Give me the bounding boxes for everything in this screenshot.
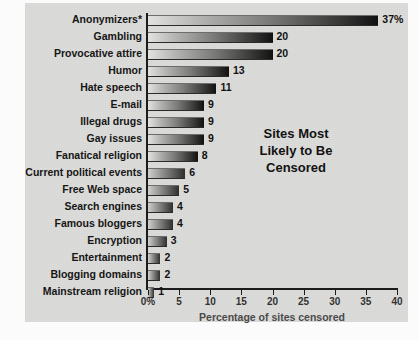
bar-value-label: 11 (220, 81, 231, 94)
bar-value-label: 20 (277, 30, 289, 43)
bar-row: Anonymizers*37% (25, 13, 408, 30)
bar-fill (148, 202, 173, 213)
bar-row: Search engines4 (25, 200, 408, 217)
bar-fill (148, 83, 216, 94)
x-tick (273, 290, 274, 295)
chart-title-line: Sites Most (221, 125, 371, 142)
bar-value-label: 9 (208, 132, 214, 145)
x-tick-label: 15 (236, 296, 247, 307)
bar-row: Hate speech11 (25, 81, 408, 98)
category-label: Hate speech (0, 81, 142, 94)
bar-fill (148, 134, 204, 145)
x-axis-title: Percentage of sites censored (146, 311, 398, 323)
bar (148, 270, 160, 281)
x-tick (366, 290, 367, 295)
plot-area: Anonymizers*37%Gambling20Provocative att… (25, 3, 408, 322)
chart-figure: Anonymizers*37%Gambling20Provocative att… (0, 0, 419, 340)
chart-panel: Anonymizers*37%Gambling20Provocative att… (25, 3, 408, 322)
bar-row: Gambling20 (25, 30, 408, 47)
category-label: Fanatical religion (0, 149, 142, 162)
bar (148, 32, 273, 43)
x-tick-label: 30 (329, 296, 340, 307)
x-tick-label: 10 (205, 296, 216, 307)
category-label: Blogging domains (0, 268, 142, 281)
x-tick-label: 5 (176, 296, 182, 307)
x-tick (335, 290, 336, 295)
bar-value-label: 4 (177, 217, 183, 230)
bar-fill (148, 117, 204, 128)
category-label: Gambling (0, 30, 142, 43)
bar-value-label: 8 (202, 149, 208, 162)
bar-fill (148, 151, 198, 162)
category-label: Current political events (0, 166, 142, 179)
category-label: Anonymizers* (0, 13, 142, 26)
bar (148, 100, 204, 111)
bar-row: Entertainment2 (25, 251, 408, 268)
category-label: Gay issues (0, 132, 142, 145)
bar-value-label: 13 (233, 64, 245, 77)
bar-fill (148, 32, 273, 43)
bar-fill (148, 219, 173, 230)
category-label: Search engines (0, 200, 142, 213)
bar-value-label: 9 (208, 98, 214, 111)
bar-value-label: 9 (208, 115, 214, 128)
bar-fill (148, 100, 204, 111)
bar (148, 117, 204, 128)
x-tick (179, 290, 180, 295)
bar-value-label: 37% (382, 13, 403, 26)
category-label: Famous bloggers (0, 217, 142, 230)
bar-row: Free Web space5 (25, 183, 408, 200)
category-label: Entertainment (0, 251, 142, 264)
bar (148, 185, 179, 196)
bar-row: Famous bloggers4 (25, 217, 408, 234)
category-label: Illegal drugs (0, 115, 142, 128)
bar-value-label: 2 (164, 268, 170, 281)
chart-title-line: Likely to Be (221, 142, 371, 159)
chart-title: Sites MostLikely to BeCensored (221, 125, 371, 176)
bar (148, 236, 167, 247)
bar-value-label: 20 (277, 47, 289, 60)
bar-fill (148, 49, 273, 60)
bar-row: Encryption3 (25, 234, 408, 251)
category-label: Encryption (0, 234, 142, 247)
x-tick-label: 35 (360, 296, 371, 307)
x-tick-label: 25 (298, 296, 309, 307)
bar (148, 168, 185, 179)
bar-row: Blogging domains2 (25, 268, 408, 285)
category-label: Humor (0, 64, 142, 77)
bar-value-label: 6 (189, 166, 195, 179)
bar-value-label: 4 (177, 200, 183, 213)
category-label: E-mail (0, 98, 142, 111)
category-label: Free Web space (0, 183, 142, 196)
bar (148, 202, 173, 213)
chart-title-line: Censored (221, 159, 371, 176)
category-label: Provocative attire (0, 47, 142, 60)
bar-fill (148, 270, 160, 281)
bar-row: Provocative attire20 (25, 47, 408, 64)
x-tick-label: 20 (267, 296, 278, 307)
x-tick (210, 290, 211, 295)
bar (148, 151, 198, 162)
x-tick (304, 290, 305, 295)
bar (148, 253, 160, 264)
x-tick (397, 290, 398, 295)
bar-fill (148, 66, 229, 77)
x-tick-label: 0% (141, 296, 155, 307)
bar-fill (148, 168, 185, 179)
x-axis-tick-labels: 0%510152025303540 (25, 296, 408, 310)
bar-fill (148, 253, 160, 264)
bar-value-label: 2 (164, 251, 170, 264)
bar-fill (148, 15, 378, 26)
x-tick-label: 40 (391, 296, 402, 307)
bar-row: Humor13 (25, 64, 408, 81)
bar-value-label: 5 (183, 183, 189, 196)
bar-fill (148, 185, 179, 196)
bar (148, 219, 173, 230)
bar (148, 83, 216, 94)
bar (148, 134, 204, 145)
bar (148, 66, 229, 77)
x-tick (241, 290, 242, 295)
bar-fill (148, 236, 167, 247)
bar-value-label: 3 (171, 234, 177, 247)
x-tick (148, 290, 149, 295)
